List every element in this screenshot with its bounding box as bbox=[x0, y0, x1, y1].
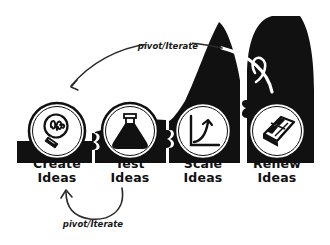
stage-renew-label-line2: Ideas bbox=[258, 170, 297, 185]
stage-renew[interactable]: Renew Ideas bbox=[249, 103, 305, 185]
bottom-arrow-stroke bbox=[66, 188, 123, 219]
stage-create-circle[interactable] bbox=[29, 103, 85, 159]
stage-test-label-line2: Ideas bbox=[111, 170, 150, 185]
stage-scale-label-line1: Scale bbox=[184, 156, 223, 171]
stage-test-label-line1: Test bbox=[115, 156, 145, 171]
diagram-canvas: pivot/Iterate pivot/Iterate Create Ideas bbox=[0, 0, 330, 245]
stage-create-label-line2: Ideas bbox=[38, 170, 77, 185]
top-feedback-arrow: pivot/Iterate bbox=[71, 40, 272, 92]
stage-scale[interactable]: Scale Ideas bbox=[175, 103, 231, 185]
stage-test[interactable]: Test Ideas bbox=[102, 103, 158, 185]
innovation-process-diagram: pivot/Iterate pivot/Iterate Create Ideas bbox=[0, 0, 330, 245]
bottom-feedback-arrow: pivot/Iterate bbox=[61, 188, 123, 229]
stage-scale-label-line2: Ideas bbox=[184, 170, 223, 185]
top-arrow-label: pivot/Iterate bbox=[137, 41, 199, 51]
stage-renew-circle[interactable] bbox=[249, 103, 305, 159]
stage-scale-circle[interactable] bbox=[175, 103, 231, 159]
stage-renew-label-line1: Renew bbox=[253, 156, 301, 171]
stage-create-label-line1: Create bbox=[33, 156, 81, 171]
bottom-arrow-label: pivot/Iterate bbox=[62, 219, 124, 229]
stage-create[interactable]: Create Ideas bbox=[29, 103, 85, 185]
